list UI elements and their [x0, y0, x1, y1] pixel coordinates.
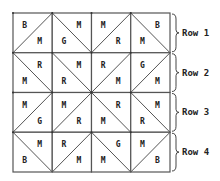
- triangle-label: M: [22, 101, 27, 110]
- triangle-label: M: [22, 77, 27, 86]
- triangle-label: G: [140, 61, 145, 70]
- triangle-label: B: [22, 21, 27, 30]
- grid-cell: BM: [12, 12, 52, 53]
- grid-cell: BM: [130, 12, 170, 53]
- row-label: Row 4: [182, 147, 210, 157]
- triangle-label: R: [37, 61, 42, 70]
- triangle-label: B: [155, 156, 160, 165]
- triangle-label: M: [155, 77, 160, 86]
- row-brace: Row 4: [172, 133, 210, 171]
- triangle-label: M: [116, 77, 121, 86]
- triangle-label: M: [37, 37, 42, 46]
- row-brace: Row 2: [172, 54, 209, 92]
- grid-cell: GM: [130, 52, 170, 93]
- row-label: Row 1: [182, 28, 209, 38]
- triangle-label: M: [155, 101, 160, 110]
- grid-cells: BMMGMRBMRMMRRMGMMGMRRMMRMBRMGMMB: [12, 12, 170, 172]
- triangle-label: R: [62, 140, 67, 149]
- row-label: Row 2: [182, 68, 209, 78]
- triangle-label: M: [101, 156, 106, 165]
- triangle-label: R: [116, 37, 121, 46]
- quilt-grid-diagram: BMMGMRBMRMMRRMGMMGMRRMMRMBRMGMMB Row 1Ro…: [0, 0, 220, 181]
- grid-cell: MR: [91, 12, 131, 53]
- row-braces: Row 1Row 2Row 3Row 4: [172, 14, 210, 171]
- triangle-label: M: [101, 21, 106, 30]
- grid-cell: RM: [12, 52, 52, 93]
- triangle-label: M: [140, 140, 145, 149]
- grid-cell: MG: [12, 92, 52, 133]
- triangle-label: G: [116, 140, 121, 149]
- triangle-label: M: [140, 37, 145, 46]
- row-brace: Row 1: [172, 14, 209, 52]
- triangle-label: G: [62, 37, 67, 46]
- triangle-label: R: [62, 77, 67, 86]
- grid-cell: GM: [91, 131, 131, 172]
- triangle-label: M: [77, 21, 82, 30]
- triangle-label: R: [77, 117, 82, 126]
- triangle-label: R: [116, 101, 121, 110]
- grid-cell: MR: [130, 92, 170, 133]
- row-label: Row 3: [182, 107, 209, 117]
- triangle-label: M: [77, 156, 82, 165]
- triangle-label: M: [62, 101, 67, 110]
- triangle-label: M: [77, 61, 82, 70]
- triangle-label: M: [101, 117, 106, 126]
- grid-cell: RM: [91, 52, 131, 93]
- row-brace: Row 3: [172, 94, 209, 132]
- grid-cell: MR: [51, 92, 91, 133]
- triangle-label: M: [37, 140, 42, 149]
- grid-cell: MG: [51, 12, 91, 53]
- grid-cell: MB: [130, 131, 170, 172]
- grid-cell: MB: [12, 131, 52, 172]
- grid-cell: RM: [91, 92, 131, 133]
- grid-cell: RM: [51, 131, 91, 172]
- triangle-label: R: [101, 61, 106, 70]
- triangle-label: G: [37, 117, 42, 126]
- triangle-label: B: [22, 156, 27, 165]
- triangle-label: R: [140, 117, 145, 126]
- triangle-label: B: [155, 21, 160, 30]
- grid-cell: MR: [51, 52, 91, 93]
